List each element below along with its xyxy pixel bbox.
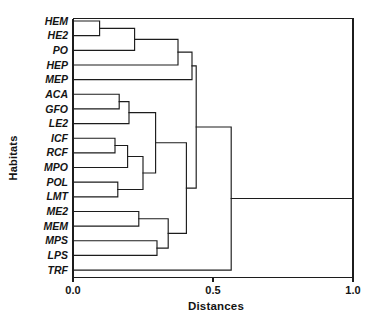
leaf-label-hem: HEM (45, 15, 69, 27)
leaf-label-rcf: RCF (46, 146, 68, 158)
dendrogram-link (73, 94, 119, 109)
leaf-labels: HEMHE2POHEPMEPACAGFOLE2ICFRCFMPOPOLLMTME… (44, 15, 70, 276)
dendrogram-link (118, 157, 143, 190)
leaf-label-he2: HE2 (48, 29, 69, 41)
dendrogram-link (73, 182, 118, 197)
dendrogram-figure: 0.00.51.0 HEMHE2POHEPMEPACAGFOLE2ICFRCFM… (0, 0, 373, 327)
dendrogram-link (73, 211, 139, 226)
leaf-label-mps: MPS (45, 234, 68, 246)
x-axis-title: Distances (188, 300, 244, 312)
dendrogram-link (73, 241, 157, 256)
leaf-label-icf: ICF (51, 132, 69, 144)
dendrogram-link (73, 39, 178, 65)
leaf-label-mep: MEP (45, 73, 69, 85)
x-tick-label-0: 0.0 (65, 284, 80, 296)
dendrogram-link (129, 113, 156, 173)
dendrogram-plot: 0.00.51.0 HEMHE2POHEPMEPACAGFOLE2ICFRCFM… (0, 0, 373, 327)
leaf-label-mem: MEM (44, 220, 69, 232)
dendrogram-link (73, 127, 231, 270)
x-tick-label-2: 1.0 (345, 284, 360, 296)
leaf-label-aca: ACA (44, 88, 68, 100)
leaf-label-me2: ME2 (46, 205, 68, 217)
leaf-label-pol: POL (46, 176, 68, 188)
dendrogram-link (73, 146, 128, 168)
dendrogram-link (186, 66, 196, 188)
dendrogram-link (73, 21, 100, 36)
leaf-label-hep: HEP (46, 59, 69, 71)
leaf-label-le2: LE2 (49, 117, 68, 129)
y-axis-title: Habitats (7, 136, 19, 181)
x-axis-ticks (73, 278, 353, 283)
leaf-label-mpo: MPO (44, 161, 68, 173)
dendrogram-links (73, 21, 353, 270)
dendrogram-link (139, 219, 168, 248)
x-axis-tick-labels: 0.00.51.0 (65, 284, 360, 296)
dendrogram-link (73, 138, 115, 153)
dendrogram-link (73, 102, 129, 124)
leaf-label-gfo: GFO (45, 103, 68, 115)
leaf-label-trf: TRF (48, 264, 69, 276)
dendrogram-link (73, 52, 192, 79)
leaf-label-lmt: LMT (46, 190, 69, 202)
leaf-label-po: PO (53, 44, 68, 56)
dendrogram-link (73, 28, 135, 50)
dendrogram-link (156, 143, 187, 234)
x-tick-label-1: 0.5 (205, 284, 220, 296)
leaf-label-lps: LPS (48, 249, 68, 261)
